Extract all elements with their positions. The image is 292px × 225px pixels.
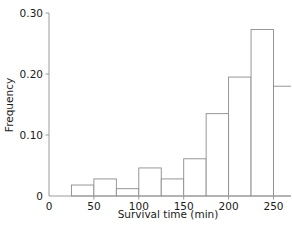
histogram-bar [184,159,206,196]
y-tick-label: 0.30 [20,7,43,19]
histogram-bar [116,189,138,196]
y-tick-label: 0.20 [20,68,43,80]
y-tick-label: 0 [36,190,43,202]
x-tick-label: 250 [263,200,283,212]
y-axis-title: Frequency [3,78,15,132]
histogram-bar [274,86,292,196]
histogram-figure: 050100150200250300 00.100.200.30 Surviva… [0,0,291,225]
plot-area: 050100150200250300 00.100.200.30 Surviva… [0,0,291,225]
x-axis-title: Survival time (min) [118,208,219,220]
histogram-bar [161,179,183,196]
histogram-bar [251,29,273,196]
histogram-bar [139,168,161,196]
y-tick-labels: 00.100.200.30 [20,7,43,202]
histogram-bar [206,114,228,196]
x-tick-label: 200 [219,200,239,212]
histogram-bar [94,179,116,196]
histogram-bar [71,185,93,196]
x-tick-label: 0 [46,200,53,212]
x-tick-label: 50 [87,200,100,212]
histogram-bar [229,77,251,196]
chart-canvas: 050100150200250300 00.100.200.30 Surviva… [0,0,291,225]
y-tick-label: 0.10 [20,129,43,141]
bars-group [71,29,291,196]
